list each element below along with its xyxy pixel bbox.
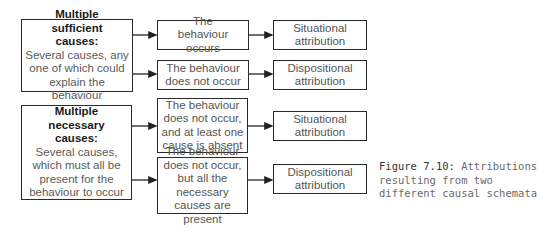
condition-not-occur-causes-present: The behaviour does not occur, but all th… (157, 157, 248, 214)
condition-behaviour-occurs: The behaviour occurs (157, 20, 249, 50)
necessary-causes-description: Several causes, which must all be presen… (23, 146, 131, 200)
figure-label: Figure 7.10: (379, 160, 455, 172)
attribution-text: Dispositional attribution (285, 62, 355, 89)
attribution-dispositional-1: Dispositional attribution (273, 60, 367, 90)
condition-text: The behaviour does not occur, but all th… (159, 145, 247, 226)
sufficient-causes-box: Multiple sufficient causes: Several caus… (21, 19, 133, 92)
necessary-causes-title: Multiple necessary causes: (32, 105, 122, 146)
attribution-text: Situational attribution (285, 113, 355, 140)
attribution-dispositional-2: Dispositional attribution (273, 164, 367, 194)
condition-text: The behaviour does not occur (162, 62, 244, 89)
sufficient-causes-title: Multiple sufficient causes: (37, 8, 117, 49)
attribution-situational-2: Situational attribution (273, 111, 367, 141)
attribution-text: Situational attribution (285, 22, 355, 49)
attribution-text: Dispositional attribution (285, 166, 355, 193)
figure-caption: Figure 7.10: Attributions resulting from… (379, 160, 547, 201)
necessary-causes-box: Multiple necessary causes: Several cause… (21, 105, 132, 200)
condition-text: The behaviour occurs (168, 15, 238, 56)
attribution-situational-1: Situational attribution (273, 20, 367, 50)
condition-behaviour-not-occur: The behaviour does not occur (157, 60, 249, 90)
sufficient-causes-description: Several causes, any one of which could e… (23, 49, 131, 103)
